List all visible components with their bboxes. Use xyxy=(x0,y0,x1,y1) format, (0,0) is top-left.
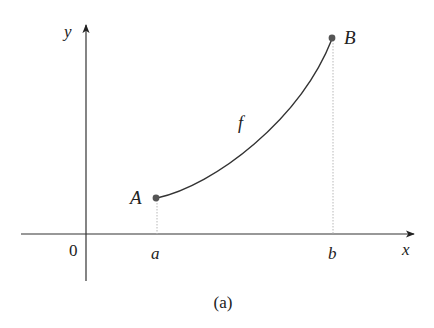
point-a-dot xyxy=(153,195,160,202)
tick-label-a: a xyxy=(151,244,160,263)
diagram-canvas: y x 0 a b A B f (a) xyxy=(0,0,434,328)
curve-label-f: f xyxy=(238,113,246,133)
point-b-label: B xyxy=(344,27,356,48)
tick-label-b: b xyxy=(328,244,337,263)
origin-label: 0 xyxy=(69,241,78,260)
point-a-label: A xyxy=(128,187,142,208)
x-axis-label: x xyxy=(401,240,410,259)
curve-f xyxy=(157,39,332,198)
point-b-dot xyxy=(329,35,336,42)
figure-caption: (a) xyxy=(214,293,233,312)
y-axis-label: y xyxy=(62,22,72,41)
